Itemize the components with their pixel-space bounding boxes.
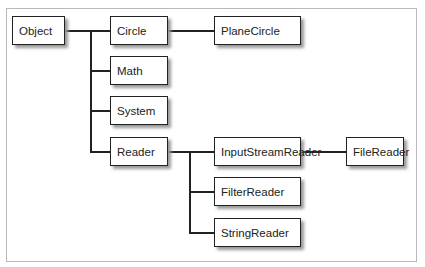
node-filter-reader: FilterReader <box>214 177 301 206</box>
connector-reader-trunk <box>168 151 214 153</box>
connector-circle-planecircle <box>168 30 214 32</box>
diagram-frame <box>6 8 417 262</box>
node-reader: Reader <box>110 137 168 166</box>
connector-to-math <box>90 70 110 72</box>
connector-to-stringreader <box>189 232 214 234</box>
connector-to-reader <box>90 151 110 153</box>
node-circle: Circle <box>110 16 168 45</box>
connector-object-trunk <box>65 30 110 32</box>
node-string-reader: StringReader <box>214 218 301 247</box>
node-plane-circle: PlaneCircle <box>214 16 301 45</box>
node-input-stream-reader: InputStreamReader <box>214 137 301 166</box>
node-file-reader: FileReader <box>346 137 404 166</box>
node-object: Object <box>12 16 65 45</box>
connector-object-vertical <box>90 30 92 152</box>
node-math: Math <box>110 56 168 85</box>
connector-to-filterreader <box>189 191 214 193</box>
node-system: System <box>110 96 168 125</box>
connector-to-system <box>90 110 110 112</box>
